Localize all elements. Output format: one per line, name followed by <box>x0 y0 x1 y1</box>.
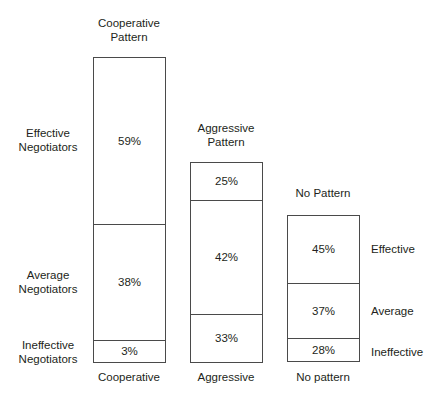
axis-label-cooperative: Cooperative <box>79 370 179 384</box>
bar-segment-value: 59% <box>118 135 141 148</box>
axis-label-no-pattern: No pattern <box>273 370 373 384</box>
bar-segment-cooperative-average: 38% <box>93 224 166 341</box>
bar-segment-no-pattern-average: 37% <box>287 283 360 340</box>
bar-segment-cooperative-effective: 59% <box>93 57 166 226</box>
bar-segment-value: 42% <box>215 251 238 264</box>
row-label-ineffective: Ineffective <box>371 345 445 359</box>
bar-segment-value: 38% <box>118 276 141 289</box>
column-title-aggressive: Aggressive Pattern <box>176 121 276 149</box>
bar-segment-value: 3% <box>121 345 138 358</box>
bar-column-cooperative: 59% 38% 3% <box>93 57 166 363</box>
bar-segment-no-pattern-effective: 45% <box>287 215 360 284</box>
bar-segment-no-pattern-ineffective: 28% <box>287 338 360 362</box>
row-label-average: Average <box>371 304 445 318</box>
axis-label-aggressive: Aggressive <box>176 370 276 384</box>
bar-segment-cooperative-ineffective: 3% <box>93 340 166 363</box>
bar-segment-value: 37% <box>312 305 335 318</box>
bar-column-no-pattern: 45% 37% 28% <box>287 215 360 363</box>
bar-segment-value: 45% <box>312 243 335 256</box>
bar-column-aggressive: 25% 42% 33% <box>190 162 263 363</box>
bar-segment-aggressive-average: 42% <box>190 200 263 316</box>
bar-segment-value: 25% <box>215 175 238 188</box>
row-label-effective-negotiators: Effective Negotiators <box>8 126 88 154</box>
row-label-ineffective-negotiators: Ineffective Negotiators <box>8 338 88 366</box>
row-label-average-negotiators: Average Negotiators <box>8 268 88 296</box>
column-title-no-pattern: No Pattern <box>273 186 373 200</box>
bar-segment-value: 28% <box>312 344 335 357</box>
column-title-cooperative: Cooperative Pattern <box>79 16 179 44</box>
row-label-effective: Effective <box>371 242 445 256</box>
bar-segment-value: 33% <box>215 332 238 345</box>
bar-segment-aggressive-effective: 25% <box>190 162 263 201</box>
bar-segment-aggressive-ineffective: 33% <box>190 314 263 363</box>
stacked-bar-chart: Cooperative Pattern Aggressive Pattern N… <box>0 0 445 408</box>
